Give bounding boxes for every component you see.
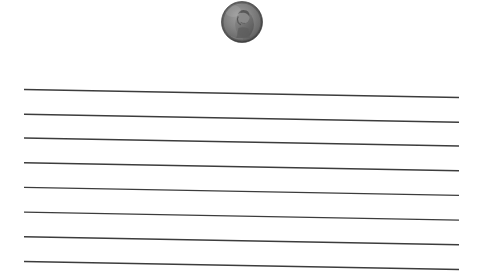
- coin-specular-highlight: [225, 5, 241, 17]
- penny-coin-icon: [0, 0, 480, 273]
- coin-body: [222, 2, 263, 43]
- coin-layer: [0, 0, 480, 273]
- scene-canvas: [0, 0, 480, 273]
- lincoln-shoulders: [237, 27, 251, 38]
